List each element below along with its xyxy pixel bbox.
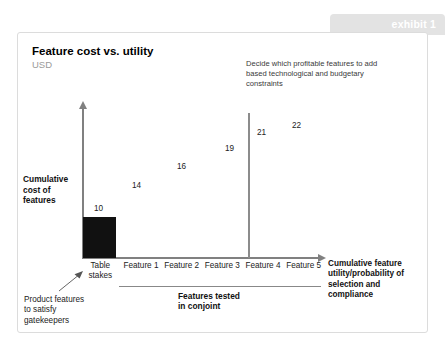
x-tick-label-feature-2: Feature 2 (161, 261, 202, 270)
data-label-feature-1: 14 (132, 181, 141, 190)
conjoint-bracket-line (119, 286, 321, 287)
exhibit-screenshot: exhibit 1 Feature cost vs. utility USD D… (0, 0, 445, 353)
exhibit-banner-label: exhibit 1 (392, 18, 436, 30)
x-tick-label-feature-3: Feature 3 (202, 261, 243, 270)
data-label-feature-4: 21 (257, 128, 266, 137)
x-tick-label-feature-1: Feature 1 (121, 261, 162, 270)
x-tick-label-table-stakes: Tablestakes (80, 261, 121, 281)
annotation-threshold-note: Decide which profitable features to add … (246, 59, 394, 90)
x-axis-tick-labels: TablestakesFeature 1Feature 2Feature 3Fe… (80, 261, 324, 283)
data-label-table-stakes: 10 (94, 204, 103, 213)
y-axis-arrow-icon (79, 101, 87, 109)
threshold-divider-line (248, 113, 250, 258)
chart-units-subtitle: USD (32, 59, 52, 70)
data-label-feature-3: 19 (225, 144, 234, 153)
y-axis-label: Cumulativecost offeatures (23, 174, 81, 206)
page-title: Feature cost vs. utility (32, 45, 153, 57)
callout-arrow-icon (58, 270, 84, 292)
x-tick-label-feature-4: Feature 4 (243, 261, 284, 270)
x-axis-line (82, 257, 319, 259)
chart-card: Feature cost vs. utility USD Decide whic… (17, 32, 428, 333)
data-label-feature-5: 22 (292, 121, 301, 130)
x-tick-label-feature-5: Feature 5 (283, 261, 324, 270)
conjoint-bracket-label: Features testedin conjoint (178, 291, 240, 312)
data-label-feature-2: 16 (177, 162, 186, 171)
callout-gatekeepers-text: Product featuresto satisfygatekeepers (24, 295, 120, 326)
bar-table-stakes (83, 217, 116, 258)
x-axis-label: Cumulative feature utility/probability o… (328, 259, 422, 301)
